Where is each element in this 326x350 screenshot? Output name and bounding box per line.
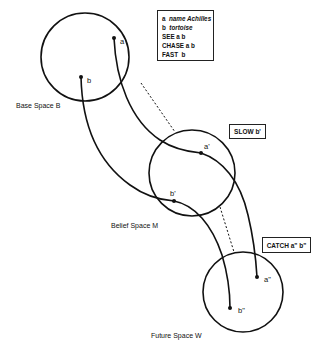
point-b-prime: [172, 199, 176, 203]
future-space-label: Future Space W: [151, 332, 202, 339]
legend-line-chase: CHASE a b: [162, 41, 209, 50]
dashed-link-belief-future: [220, 207, 234, 252]
point-a-prime: [199, 151, 203, 155]
point-b: [79, 75, 83, 79]
label-a: a: [120, 38, 124, 46]
connector-a-prime-to-a-double-prime: [201, 153, 257, 277]
point-a: [112, 36, 116, 40]
connector-b-prime-to-b-double-prime: [174, 201, 230, 308]
base-space-legend: a name Achilles b tortoise SEE a b CHASE…: [157, 10, 214, 61]
dashed-link-base-belief: [141, 83, 175, 132]
label-a-double-prime: a": [264, 276, 271, 284]
label-b: b: [87, 77, 91, 85]
slow-tag: SLOW b': [229, 124, 266, 139]
connector-b-to-b-prime: [81, 77, 174, 201]
point-b-double-prime: [228, 306, 232, 310]
legend-line-b: b tortoise: [162, 23, 209, 32]
label-a-prime: a': [204, 143, 210, 151]
catch-tag: CATCH a" b": [262, 237, 311, 253]
legend-line-see: SEE a b: [162, 32, 209, 41]
legend-line-a: a name Achilles: [162, 14, 209, 23]
point-a-double-prime: [255, 275, 259, 279]
label-b-prime: b': [170, 190, 176, 198]
legend-line-fast: FAST b: [162, 50, 209, 59]
label-b-double-prime: b": [238, 307, 245, 315]
belief-space-circle: [149, 130, 235, 216]
base-space-label: Base Space B: [16, 102, 60, 109]
future-space-circle: [203, 252, 283, 332]
belief-space-label: Belief Space M: [111, 222, 158, 229]
